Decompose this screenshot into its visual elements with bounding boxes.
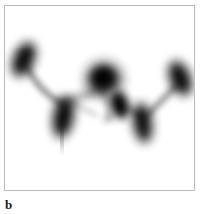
faint-center-speck (103, 115, 113, 123)
scan-image (5, 6, 194, 190)
scan-image-frame (4, 5, 195, 191)
panel-label: b (5, 198, 12, 212)
faint-center-wisp (110, 97, 118, 105)
central-node-core (93, 68, 113, 86)
figure-panel: b (0, 0, 202, 214)
